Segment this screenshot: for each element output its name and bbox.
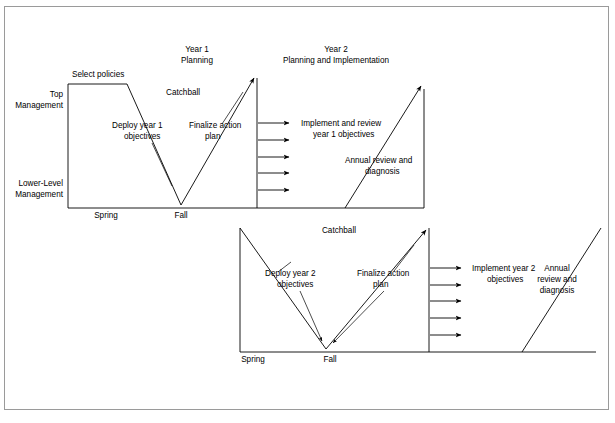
annual-review2-label-line1: Annual <box>544 264 570 273</box>
finalize-action-label-line1: Finalize action <box>189 121 242 130</box>
implement-year2-label-line1: Implement year 2 <box>472 264 536 273</box>
bottom-annual-review-rising-line <box>522 228 601 352</box>
implement-year2-label-line2: objectives <box>487 275 523 284</box>
year2-finalize-leader-up <box>394 245 414 271</box>
finalize-action-leader-line <box>222 92 243 124</box>
finalize-action-label-line2: plan <box>205 132 221 141</box>
year2-finalize-arrow <box>326 230 426 349</box>
deploy-year2-label-line2: objectives <box>277 280 313 289</box>
top-annual-review-rising-arrow <box>345 86 421 208</box>
policy-deployment-diagram: Year 1 Planning Year 2 Planning and Impl… <box>0 0 615 423</box>
implement-review-label-line2: year 1 objectives <box>313 130 374 139</box>
deploy-year2-label-line1: Deploy year 2 <box>265 269 316 278</box>
year2-finalize-label-line2: plan <box>373 280 389 289</box>
top-management-label-line2: Management <box>15 101 64 110</box>
bottom-panel-fall-tick: Fall <box>323 355 336 364</box>
year1-heading-line2: Planning <box>181 56 213 65</box>
annual-review2-label-line3: diagnosis <box>540 286 575 295</box>
year1-deploy-line <box>68 84 181 205</box>
annual-review2-label-line2: review and <box>537 275 577 284</box>
lower-level-label-line1: Lower-Level <box>18 179 63 188</box>
year1-finalize-arrow <box>181 78 254 205</box>
figure-root: Year 1 Planning Year 2 Planning and Impl… <box>0 0 615 423</box>
year2-finalize-label-line1: Finalize action <box>357 269 410 278</box>
year2-catchball-label: Catchball <box>322 226 356 235</box>
deploy-year1-label-line1: Deploy year 1 <box>112 121 163 130</box>
deploy-year1-label-line2: objectives <box>124 132 160 141</box>
deploy-year2-leader-line <box>300 291 322 341</box>
lower-level-label-line2: Management <box>15 190 64 199</box>
figure-caption <box>5 414 605 423</box>
year1-heading-line1: Year 1 <box>185 45 209 54</box>
deploy-year1-leader-line <box>152 143 172 186</box>
bottom-panel-spring-tick: Spring <box>241 355 265 364</box>
top-panel-fall-tick: Fall <box>174 211 187 220</box>
implement-review-label-line1: Implement and review <box>301 119 381 128</box>
year2-finalize-leader-down <box>333 291 384 343</box>
top-management-label-line1: Top <box>50 90 64 99</box>
top-panel-spring-tick: Spring <box>94 211 118 220</box>
year1-catchball-label: Catchball <box>166 88 200 97</box>
year2-heading-line2: Planning and Implementation <box>283 56 390 65</box>
select-policies-label: Select policies <box>72 70 124 79</box>
year2-heading-line1: Year 2 <box>324 45 348 54</box>
annual-review-label-line1: Annual review and <box>345 156 413 165</box>
